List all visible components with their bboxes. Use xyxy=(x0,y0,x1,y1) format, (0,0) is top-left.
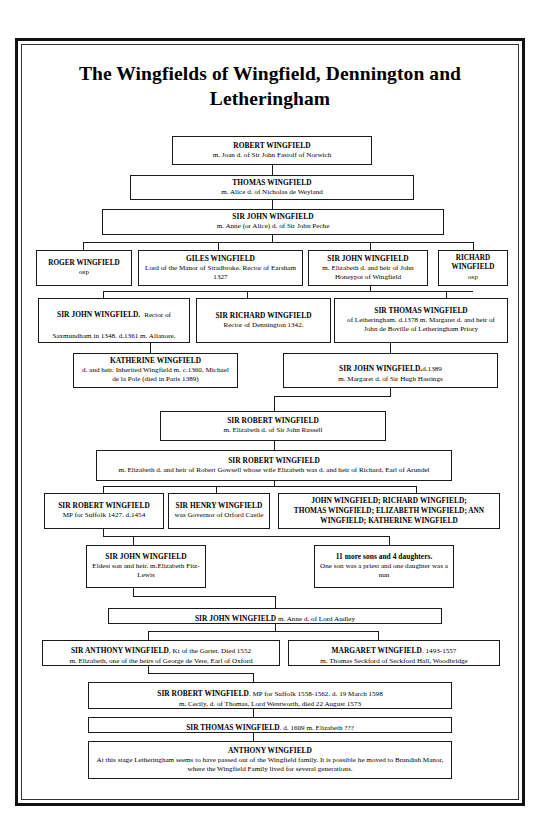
node-detail-2: m. Elizabeth, one of the heirs of George… xyxy=(69,657,252,666)
drop-margaret xyxy=(378,631,379,640)
drop-john2 xyxy=(370,242,371,250)
sibling-bus-gen11 xyxy=(148,631,378,632)
node-detail: was Governor of Orford Castle xyxy=(175,511,264,520)
node-more-children[interactable]: 11 more sons and 4 daughters. One son wa… xyxy=(314,545,454,588)
family-tree: ROBERT WINGFIELD m. Joan d. of Sir John … xyxy=(0,0,546,834)
node-sir-robert-wingfield-5[interactable]: SIR ROBERT WINGFIELD. MP for Suffolk 155… xyxy=(88,682,452,709)
drop-john3 xyxy=(103,291,104,298)
connector-anthony1-robert5-h xyxy=(148,673,254,674)
node-name: SIR JOHN WINGFIELD. xyxy=(339,364,422,373)
node-headline: SIR JOHN WINGFIELD m. Anne d. of Lord Au… xyxy=(195,608,355,624)
node-sir-john-wingfield-1[interactable]: SIR JOHN WINGFIELD m. Anne (or Alice) d.… xyxy=(102,209,444,235)
drop-roger xyxy=(83,242,84,250)
connector-thomas3-anthony2 xyxy=(253,733,254,741)
node-detail: . d. 1609 m. Elizabeth ??? xyxy=(280,724,354,732)
drop-more xyxy=(389,536,390,545)
node-name: SIR ROBERT WINGFIELD xyxy=(228,456,320,466)
node-detail-2: m. Cecily, d. of Thomas, Lord Wentworth,… xyxy=(179,700,361,709)
node-sir-henry-wingfield[interactable]: SIR HENRY WINGFIELD was Governor of Orfo… xyxy=(168,493,270,529)
node-name: SIR ROBERT WINGFIELD xyxy=(157,689,249,698)
node-detail: At this stage Letheringham seems to have… xyxy=(94,756,446,775)
node-detail: d. and heir. Inherited Wingfield m. c.13… xyxy=(79,366,232,385)
node-detail: osp xyxy=(468,273,478,282)
node-name: JOHN WINGFIELD; RICHARD WINGFIELD; xyxy=(311,496,467,506)
node-sir-john-wingfield-3[interactable]: SIR JOHN WINGFIELD. Rector of Saxmundham… xyxy=(38,298,190,343)
node-name: KATHERINE WINGFIELD xyxy=(110,356,201,366)
node-sir-thomas-wingfield-3[interactable]: SIR THOMAS WINGFIELD. d. 1609 m. Elizabe… xyxy=(88,717,452,733)
node-detail: One son was a priest and one daughter wa… xyxy=(320,562,448,581)
node-sir-john-wingfield-4[interactable]: SIR JOHN WINGFIELD.d.1389 m. Margaret d.… xyxy=(283,353,498,388)
node-name: SIR THOMAS WINGFIELD xyxy=(374,306,468,316)
node-katherine-wingfield[interactable]: KATHERINE WINGFIELD d. and heir. Inherit… xyxy=(73,353,238,388)
connector-robert5-thomas3 xyxy=(253,709,254,717)
node-detail-2: m. Margaret d. of Sir Hugh Hastings xyxy=(338,375,443,384)
connector-down-robert5 xyxy=(253,673,254,682)
node-detail: osp xyxy=(79,268,89,277)
connector-john4-robert2-h xyxy=(274,396,391,397)
node-name: 11 more sons and 4 daughters. xyxy=(336,552,433,562)
node-sir-john-wingfield-6[interactable]: SIR JOHN WINGFIELD m. Anne d. of Lord Au… xyxy=(108,608,442,624)
node-name: SIR HENRY WINGFIELD xyxy=(176,501,263,511)
node-name: SIR JOHN WINGFIELD xyxy=(195,614,276,623)
node-headline: SIR THOMAS WINGFIELD. d. 1609 m. Elizabe… xyxy=(186,717,354,733)
node-detail: Rector of Dennington 1342. xyxy=(223,321,303,330)
node-name: SIR JOHN WINGFIELD. xyxy=(57,310,140,319)
node-roger-wingfield[interactable]: ROGER WINGFIELD osp xyxy=(36,250,132,286)
connector-john3-katherine xyxy=(150,343,151,353)
drop-henry xyxy=(216,486,217,493)
node-name: ROBERT WINGFIELD xyxy=(233,141,310,151)
connector-down-robert2 xyxy=(274,396,275,411)
node-sir-john-wingfield-2[interactable]: SIR JOHN WINGFIELD m. Elizabeth d. and h… xyxy=(308,250,428,286)
node-name: GILES WINGFIELD xyxy=(186,254,255,264)
node-sir-richard-wingfield-2[interactable]: SIR RICHARD WINGFIELD Rector of Denningt… xyxy=(196,298,331,343)
node-name: ROGER WINGFIELD xyxy=(48,259,120,269)
node-detail: , Kt of the Garter. Died 1552 xyxy=(169,647,251,655)
node-sir-robert-wingfield-2[interactable]: SIR ROBERT WINGFIELD m. Elizabeth d. of … xyxy=(160,411,386,441)
node-detail: m. Elizabeth d. and heir of John Honeypo… xyxy=(314,264,422,283)
sibling-bus-gen5 xyxy=(103,291,473,292)
node-name: RICHARD WINGFIELD xyxy=(441,254,505,273)
node-name: SIR JOHN WINGFIELD xyxy=(232,212,313,222)
node-name: SIR ANTHONY WINGFIELD xyxy=(71,646,169,655)
connector-thomas1-john1 xyxy=(272,200,273,209)
sibling-bus-gen9 xyxy=(103,536,389,537)
node-detail: MP for Suffolk 1427. d.1454 xyxy=(63,511,146,520)
node-giles-wingfield[interactable]: GILES WINGFIELD Lord of the Manor of Str… xyxy=(138,250,303,286)
node-detail: . MP for Suffolk 1558-1562. d. 19 March … xyxy=(249,690,383,698)
node-detail: Lord of the Manor of Stradbroke. Rector … xyxy=(144,264,297,283)
node-name: SIR ROBERT WINGFIELD xyxy=(58,501,150,511)
sibling-bus-gen4 xyxy=(83,242,474,243)
node-name: MARGARET WINGFIELD xyxy=(332,646,422,655)
drop-thomas2 xyxy=(446,291,447,298)
node-detail: THOMAS WINGFIELD; ELIZABETH WINGFIELD; A… xyxy=(284,506,494,525)
node-sibling-list-1[interactable]: JOHN WINGFIELD; RICHARD WINGFIELD; THOMA… xyxy=(278,493,500,529)
drop-richard2 xyxy=(247,291,248,298)
node-detail: . 1493-1557 xyxy=(422,647,457,655)
node-detail: m. Anne d. of Lord Audley xyxy=(276,615,355,623)
node-detail: m. Joan d. of Sir John Fastolf of Norwic… xyxy=(213,151,332,160)
drop-giles xyxy=(218,242,219,250)
node-richard-wingfield-1[interactable]: RICHARD WINGFIELD osp xyxy=(438,250,508,286)
node-detail: m. Anne (or Alice) d. of Sir John Peche xyxy=(217,222,330,231)
drop-anthony1 xyxy=(148,631,149,640)
node-sir-john-wingfield-5[interactable]: SIR JOHN WINGFIELD Eldest son and heir. … xyxy=(86,545,206,588)
node-anthony-wingfield-final[interactable]: ANTHONY WINGFIELD At this stage Letherin… xyxy=(88,741,452,779)
node-sir-anthony-wingfield[interactable]: SIR ANTHONY WINGFIELD, Kt of the Garter.… xyxy=(42,640,280,666)
node-sir-robert-wingfield-4[interactable]: SIR ROBERT WINGFIELD MP for Suffolk 1427… xyxy=(44,493,164,529)
page-canvas: The Wingfields of Wingfield, Dennington … xyxy=(0,0,546,834)
node-robert-wingfield-1[interactable]: ROBERT WINGFIELD m. Joan d. of Sir John … xyxy=(172,136,372,165)
drop-siblings1 xyxy=(416,486,417,493)
node-headline: SIR ROBERT WINGFIELD. MP for Suffolk 155… xyxy=(157,682,383,700)
connector-robert2-robert3 xyxy=(274,441,275,450)
connector-john5-john6-h xyxy=(133,596,276,597)
node-detail: d.1389 xyxy=(422,365,442,373)
node-detail: m. Elizabeth d. of Sir John Russell xyxy=(223,426,322,435)
node-thomas-wingfield-1[interactable]: THOMAS WINGFIELD m. Alice d. of Nicholas… xyxy=(130,175,414,200)
node-margaret-wingfield[interactable]: MARGARET WINGFIELD. 1493-1557 m. Thomas … xyxy=(288,640,500,666)
drop-richard1 xyxy=(473,242,474,250)
node-sir-robert-wingfield-3[interactable]: SIR ROBERT WINGFIELD m. Elizabeth d. and… xyxy=(96,450,452,481)
node-sir-thomas-wingfield-2[interactable]: SIR THOMAS WINGFIELD of Letheringham. d.… xyxy=(334,298,508,343)
drop-robert4 xyxy=(103,486,104,493)
node-name: SIR JOHN WINGFIELD xyxy=(105,552,186,562)
connector-down-john6 xyxy=(275,596,276,608)
